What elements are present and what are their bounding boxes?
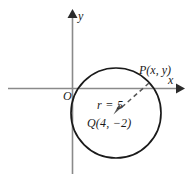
point-p-label: P(x, y): [139, 64, 171, 76]
x-axis-arrowhead: [176, 84, 185, 94]
center-q-label: Q(4, −2): [87, 117, 131, 129]
y-axis-label: y: [78, 10, 83, 22]
circle-shape: [71, 68, 161, 158]
figure-canvas: [0, 0, 194, 181]
radius-dashed-arrow-line: [121, 83, 149, 108]
origin-label: O: [63, 90, 72, 102]
geometry-figure: y x O P(x, y) r = 5 Q(4, −2): [0, 0, 194, 181]
radius-label: r = 5: [97, 99, 123, 111]
y-axis-arrowhead: [68, 9, 78, 18]
